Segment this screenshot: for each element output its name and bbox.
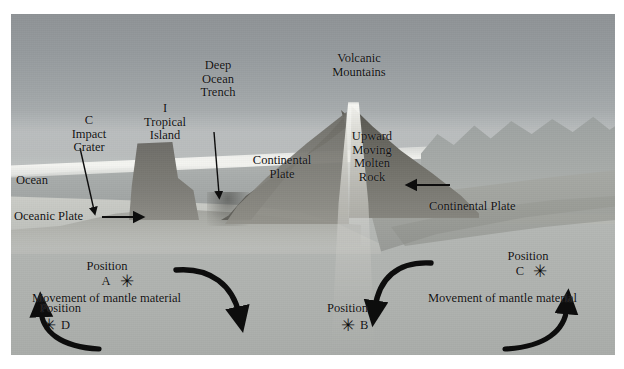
label-deep-ocean-trench: Deep Ocean Trench [187, 59, 249, 100]
mantle-convection-right-ascending-arrow [505, 307, 567, 349]
label-upward-moving-molten-rock: Upward Moving Molten Rock [341, 130, 403, 184]
label-tropical-island: I Tropical Island [129, 102, 201, 143]
label-position-a-letter: A [95, 275, 117, 289]
impact-crater-pointer [80, 148, 94, 210]
position-marker-d: ✳ [42, 316, 56, 335]
label-position-b-letter: B [360, 319, 382, 333]
label-impact-crater: C Impact Crater [58, 114, 120, 155]
label-oceanic-plate: Oceanic Plate [14, 210, 108, 224]
position-marker-a: ✳ [120, 272, 134, 291]
diagram-stage: ✳ ✳ ✳ ✳ C Impact Crater I Tropical Islan… [0, 0, 624, 369]
label-position-b-word: Position [327, 302, 387, 316]
position-marker-b: ✳ [341, 316, 355, 335]
label-movement-mantle-left: Movement of mantle material [32, 292, 232, 306]
deep-ocean-trench-pointer [214, 132, 219, 194]
label-continental-plate-left: Continental Plate [246, 154, 318, 181]
label-position-d-letter: D [61, 319, 83, 333]
svg-text:✳: ✳ [533, 262, 547, 281]
label-volcanic-mountains: Volcanic Mountains [311, 52, 407, 79]
svg-text:✳: ✳ [42, 316, 56, 335]
label-position-c-word: Position [498, 250, 558, 264]
svg-text:✳: ✳ [120, 272, 134, 291]
label-ocean: Ocean [16, 174, 76, 188]
diagram-plate: ✳ ✳ ✳ ✳ C Impact Crater I Tropical Islan… [11, 14, 615, 355]
label-movement-mantle-right: Movement of mantle material [428, 292, 615, 306]
position-marker-c: ✳ [533, 262, 547, 281]
svg-text:✳: ✳ [341, 316, 355, 335]
label-position-c-letter: C [509, 265, 531, 279]
label-continental-plate-right: Continental Plate [429, 200, 559, 214]
label-position-a-word: Position [77, 260, 137, 274]
